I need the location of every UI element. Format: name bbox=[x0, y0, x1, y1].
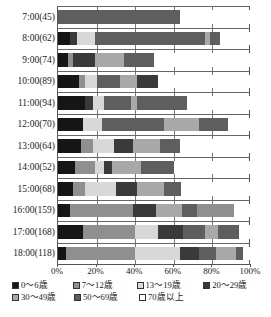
bar-segment bbox=[83, 225, 135, 239]
y-axis-label: 13:00(64) bbox=[0, 141, 58, 151]
row-separator bbox=[58, 49, 249, 50]
y-axis-label: 16:00(159) bbox=[0, 205, 58, 215]
bar-segment bbox=[85, 96, 93, 110]
bar-segment bbox=[70, 204, 134, 218]
bar-segment bbox=[58, 204, 70, 218]
bar-row bbox=[58, 225, 251, 239]
legend-label: 7～12歳 bbox=[82, 281, 113, 290]
row-separator bbox=[58, 114, 249, 115]
stacked-bar bbox=[58, 161, 251, 175]
legend-label: 30～49歳 bbox=[21, 293, 56, 302]
row-separator bbox=[58, 200, 249, 201]
bar-segment bbox=[183, 225, 204, 239]
bar-segment bbox=[234, 204, 251, 218]
bar-segment bbox=[154, 53, 251, 67]
y-axis-label: 7:00(45) bbox=[0, 12, 58, 22]
bar-row bbox=[58, 118, 251, 132]
row-separator bbox=[58, 178, 249, 179]
bar-row bbox=[58, 53, 251, 67]
bar-segment bbox=[180, 139, 251, 153]
stacked-bar bbox=[58, 96, 251, 110]
bar-segment bbox=[58, 161, 75, 175]
bar-segment bbox=[218, 225, 239, 239]
bar-segment bbox=[180, 10, 251, 24]
stacked-bar bbox=[58, 204, 251, 218]
bar-segment bbox=[73, 182, 85, 196]
legend-item[interactable]: 30～49歳 bbox=[12, 293, 74, 302]
bar-segment bbox=[73, 53, 94, 67]
x-tick-label: 100% bbox=[240, 266, 261, 276]
legend: 0～6歳7～12歳13～19歳20～29歳 30～49歳50～69歳70歳以上 bbox=[12, 281, 264, 305]
bar-segment bbox=[70, 32, 78, 46]
bar-segment bbox=[58, 32, 70, 46]
bar-segment bbox=[239, 225, 251, 239]
legend-item[interactable]: 13～19歳 bbox=[137, 281, 204, 290]
bar-row bbox=[58, 75, 251, 89]
legend-swatch bbox=[73, 282, 80, 289]
legend-item[interactable]: 0～6歳 bbox=[12, 281, 73, 290]
bar-segment bbox=[93, 139, 114, 153]
row-separator bbox=[58, 6, 249, 7]
stacked-bar bbox=[58, 139, 251, 153]
y-axis-label: 14:00(52) bbox=[0, 162, 58, 172]
bar-segment bbox=[228, 118, 251, 132]
bar-segment bbox=[95, 32, 205, 46]
bar-segment bbox=[81, 139, 93, 153]
row-separator bbox=[58, 71, 249, 72]
legend-item[interactable]: 7～12歳 bbox=[73, 281, 137, 290]
y-axis-label: 12:00(70) bbox=[0, 119, 58, 129]
bar-segment bbox=[216, 247, 235, 261]
legend-swatch bbox=[12, 282, 19, 289]
bar-row bbox=[58, 161, 251, 175]
bar-segment bbox=[114, 139, 133, 153]
bar-segment bbox=[158, 225, 183, 239]
y-axis-label: 8:00(62) bbox=[0, 33, 58, 43]
bar-segment bbox=[58, 75, 79, 89]
x-tick-label: 40% bbox=[126, 266, 143, 276]
plot-area bbox=[57, 6, 250, 264]
bar-segment bbox=[141, 161, 174, 175]
bar-segment bbox=[58, 247, 66, 261]
stacked-bar bbox=[58, 225, 251, 239]
bar-segment bbox=[85, 75, 97, 89]
legend-label: 20～29歳 bbox=[212, 281, 247, 290]
y-axis-label: 9:00(74) bbox=[0, 55, 58, 65]
x-tick-label: 80% bbox=[203, 266, 220, 276]
bar-segment bbox=[174, 161, 251, 175]
bar-segment bbox=[97, 75, 120, 89]
legend-swatch bbox=[137, 282, 144, 289]
bar-row bbox=[58, 139, 251, 153]
row-separator bbox=[58, 157, 249, 158]
legend-item[interactable]: 70歳以上 bbox=[139, 293, 207, 302]
bar-segment bbox=[95, 161, 105, 175]
legend-item[interactable]: 50～69歳 bbox=[74, 293, 139, 302]
bar-row bbox=[58, 204, 251, 218]
y-axis-label: 10:00(89) bbox=[0, 76, 58, 86]
stacked-bar bbox=[58, 182, 251, 196]
legend-label: 70歳以上 bbox=[148, 293, 184, 302]
bar-segment bbox=[180, 247, 199, 261]
bar-row bbox=[58, 10, 251, 24]
stacked-bar bbox=[58, 10, 251, 24]
legend-item[interactable]: 20～29歳 bbox=[203, 281, 264, 290]
bar-segment bbox=[182, 204, 197, 218]
bar-segment bbox=[133, 139, 160, 153]
x-axis-line bbox=[57, 264, 251, 265]
x-tick-label: 20% bbox=[87, 266, 104, 276]
bar-segment bbox=[205, 225, 219, 239]
row-separator bbox=[58, 135, 249, 136]
y-axis-label: 18:00(118) bbox=[0, 248, 58, 258]
legend-label: 0～6歳 bbox=[21, 281, 48, 290]
x-tick-label: 0% bbox=[51, 266, 63, 276]
bar-segment bbox=[66, 247, 135, 261]
bar-segment bbox=[199, 247, 216, 261]
row-separator bbox=[58, 92, 249, 93]
y-axis-label: 17:00(168) bbox=[0, 227, 58, 237]
bar-segment bbox=[120, 75, 137, 89]
bar-segment bbox=[135, 247, 179, 261]
legend-swatch bbox=[74, 294, 81, 301]
bar-segment bbox=[135, 225, 158, 239]
bar-segment bbox=[156, 204, 181, 218]
bar-segment bbox=[102, 118, 164, 132]
bar-segment bbox=[137, 96, 187, 110]
